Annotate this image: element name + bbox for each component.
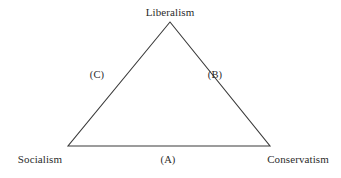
edge-label-b: (B) — [208, 68, 222, 81]
edge-label-c: (C) — [90, 68, 104, 81]
vertex-label-socialism: Socialism — [18, 153, 62, 166]
triangle-shape — [0, 0, 341, 178]
edge-label-a: (A) — [161, 153, 176, 166]
vertex-label-conservatism: Conservatism — [267, 153, 329, 166]
triangle-diagram: Liberalism Socialism Conservatism (A) (B… — [0, 0, 341, 178]
vertex-label-liberalism: Liberalism — [146, 6, 195, 19]
triangle-outline — [68, 22, 270, 146]
